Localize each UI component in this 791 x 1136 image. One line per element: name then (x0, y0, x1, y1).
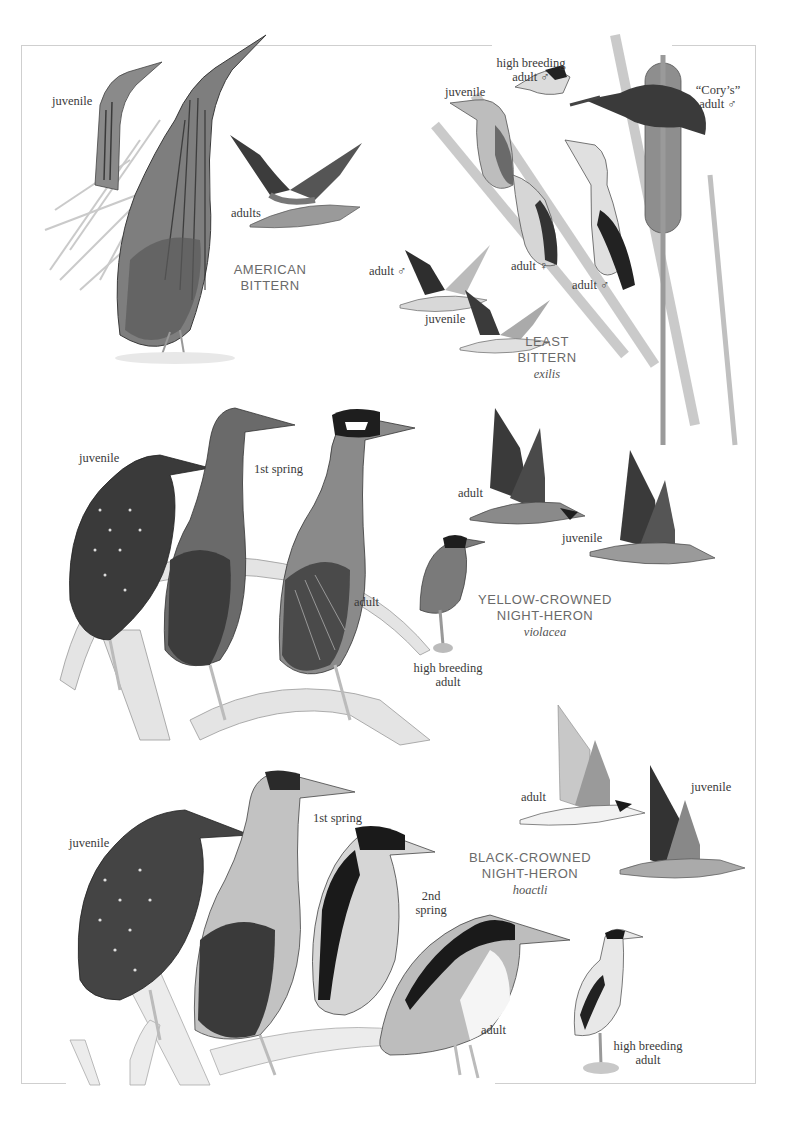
frame-left (21, 45, 22, 1083)
label-ycnh-high-breeding: high breeding adult (410, 661, 486, 689)
title-line-2: NIGHT-HERON (475, 608, 615, 624)
label-least-bittern-juvenile-flying: juvenile (425, 312, 465, 326)
label-least-bittern-adult-male-flying: adult ♂ (369, 264, 407, 278)
label-least-bittern-corys: “Cory’s” adult ♂ (690, 83, 746, 111)
label-least-bittern-adult-male: adult ♂ (572, 278, 610, 292)
title-line-1: BLACK-CROWNED (462, 850, 598, 866)
title-line-1: AMERICAN (222, 262, 318, 278)
american-bittern-illustration (40, 30, 370, 370)
label-american-bittern-adults: adults (231, 206, 261, 220)
label-ycnh-juvenile-flying: juvenile (562, 531, 602, 545)
label-ycnh-adult-standing: adult (354, 595, 379, 609)
title-line-2: BITTERN (507, 350, 587, 366)
title-line-2: BITTERN (222, 278, 318, 294)
scientific-name: hoactli (462, 882, 598, 898)
label-bcnh-juvenile: juvenile (69, 836, 109, 850)
label-ycnh-1st-spring: 1st spring (254, 462, 303, 476)
scientific-name: violacea (475, 624, 615, 640)
label-ycnh-juvenile: juvenile (79, 451, 119, 465)
label-bcnh-high-breeding: high breeding adult (610, 1039, 686, 1067)
label-bcnh-2nd-spring: 2nd spring (413, 889, 449, 917)
scientific-name: exilis (507, 366, 587, 382)
title-yellow-crowned-night-heron: YELLOW-CROWNED NIGHT-HERON violacea (475, 592, 615, 640)
label-least-bittern-juvenile-perched: juvenile (445, 85, 485, 99)
label-least-bittern-adult-female: adult ♀ (511, 259, 549, 273)
frame-right (755, 45, 756, 1083)
label-american-bittern-juvenile: juvenile (52, 94, 92, 108)
title-line-1: LEAST (507, 334, 587, 350)
label-bcnh-adult-flying: adult (521, 790, 546, 804)
title-black-crowned-night-heron: BLACK-CROWNED NIGHT-HERON hoactli (462, 850, 598, 898)
label-ycnh-adult-flying: adult (458, 486, 483, 500)
label-bcnh-adult-standing: adult (481, 1023, 506, 1037)
label-bcnh-juvenile-flying: juvenile (691, 780, 731, 794)
title-least-bittern: LEAST BITTERN exilis (507, 334, 587, 382)
title-american-bittern: AMERICAN BITTERN (222, 262, 318, 294)
label-least-bittern-high-breeding: high breeding adult ♂ (483, 56, 579, 84)
title-line-1: YELLOW-CROWNED (475, 592, 615, 608)
black-crowned-night-heron-illustration (60, 700, 740, 1090)
title-line-2: NIGHT-HERON (462, 866, 598, 882)
label-bcnh-1st-spring: 1st spring (313, 811, 362, 825)
